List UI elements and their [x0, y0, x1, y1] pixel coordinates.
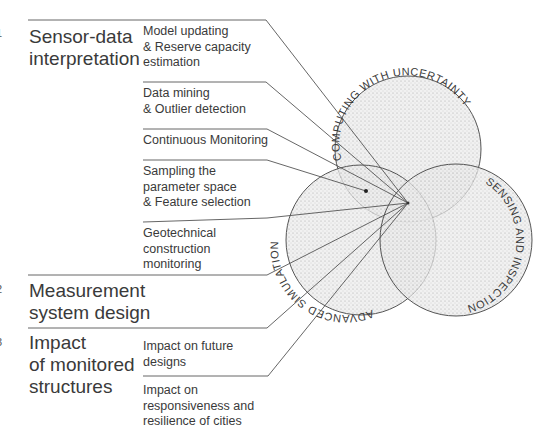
- item-impact-future-designs: Impact on future designs: [143, 339, 233, 370]
- section-title-impact-monitored-structures: Impact of monitored structures: [29, 332, 135, 398]
- item-sampling-parameter-space: Sampling the parameter space & Feature s…: [143, 164, 251, 211]
- item-data-mining: Data mining & Outlier detection: [143, 86, 246, 117]
- circle-sensing-and-inspection: [380, 164, 532, 316]
- item-geotechnical-monitoring: Geotechnical construction monitoring: [143, 226, 216, 273]
- section-title-sensor-data-interpretation: Sensor-data interpretation: [29, 26, 140, 70]
- sampling-point-marker: [364, 189, 368, 193]
- item-continuous-monitoring: Continuous Monitoring: [143, 133, 268, 149]
- section-number-2: 2: [0, 283, 2, 295]
- section-number-1: 1: [0, 27, 2, 39]
- item-impact-cities: Impact on responsiveness and resilience …: [143, 383, 254, 430]
- section-title-measurement-system-design: Measurement system design: [29, 280, 150, 324]
- convergence-point: [407, 202, 410, 205]
- section-number-3: 3: [0, 336, 2, 348]
- item-model-updating: Model updating & Reserve capacity estima…: [143, 24, 251, 71]
